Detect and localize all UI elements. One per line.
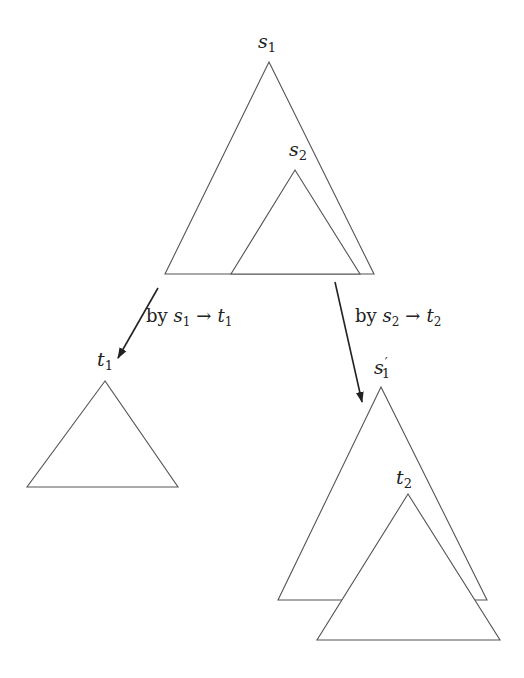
edge-rhs-sub: 1: [225, 315, 233, 329]
label-s1-base: s: [258, 30, 268, 52]
tree-rewrite-diagram: s1 s2 t1 s′1 t2 by s1→t1 by s2→t2: [0, 0, 524, 678]
label-t1-base: t: [97, 348, 105, 370]
edge-lhs: s: [382, 305, 391, 326]
label-s2-base: s: [289, 138, 299, 160]
label-s2-sub: 2: [299, 148, 307, 163]
edge-label-s2-to-t2: by s2→t2: [355, 307, 441, 328]
edge-label-s1-to-t1: by s1→t1: [146, 307, 232, 328]
diagram-graphics: [0, 0, 524, 678]
label-s1-prime-sub: 1: [382, 366, 390, 381]
edge-by-text: by: [355, 305, 377, 326]
label-t2-base: t: [396, 466, 404, 488]
edge-by-text: by: [146, 305, 168, 326]
label-s1: s1: [258, 32, 276, 54]
edge-lhs-sub: 2: [392, 315, 400, 329]
edge-rhs: t: [426, 305, 433, 326]
label-t1-sub: 1: [105, 358, 113, 373]
edge-rhs-sub: 2: [434, 315, 442, 329]
label-t2-sub: 2: [404, 476, 412, 491]
label-t1: t1: [97, 350, 113, 372]
label-s1-sub: 1: [268, 40, 276, 55]
edge-lhs-sub: 1: [183, 315, 191, 329]
label-t2: t2: [396, 468, 412, 490]
edge-rhs: t: [217, 305, 224, 326]
edge-lhs: s: [173, 305, 182, 326]
label-s1-prime: s′1: [374, 356, 390, 380]
rewrite-arrow-icon: →: [405, 305, 420, 326]
arrow-to-s1-prime: [335, 282, 362, 402]
rewrite-arrow-icon: →: [196, 305, 211, 326]
tree-t1-triangle: [27, 381, 178, 487]
label-s2: s2: [289, 140, 307, 162]
